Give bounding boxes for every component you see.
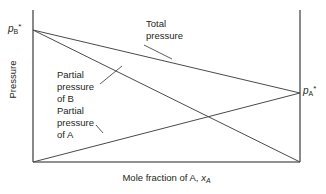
pressure-pure-a-label: pA* (303, 84, 316, 97)
x-axis-title-text: Mole fraction of A, (122, 172, 201, 183)
partial-pressure-a-leader (96, 125, 103, 133)
partial-pressure-b-label-line2: pressure (57, 81, 94, 93)
partial-pressure-b-label-line3: of B (57, 93, 94, 105)
partial-pressure-a-label: Partial pressure of A (57, 105, 94, 141)
total-pressure-label-line1: Total (146, 18, 183, 30)
total-pressure-label-line2: pressure (146, 30, 183, 42)
x-axis-title-variable-subscript: A (206, 177, 211, 184)
pressure-pure-a-superscript: * (313, 84, 316, 93)
vapor-pressure-diagram: Pressure Mole fraction of A, xA pB* pA* … (0, 0, 326, 194)
total-pressure-label: Total pressure (146, 18, 183, 42)
partial-pressure-b-label-line1: Partial (57, 69, 94, 81)
y-axis-title: Pressure (7, 44, 18, 116)
partial-pressure-b-label: Partial pressure of B (57, 69, 94, 105)
pressure-pure-b-superscript: * (18, 22, 21, 31)
pressure-pure-b-label: pB* (8, 22, 21, 35)
partial-pressure-a-label-line1: Partial (57, 105, 94, 117)
x-axis-title: Mole fraction of A, xA (33, 172, 300, 184)
partial-pressure-a-label-line2: pressure (57, 117, 94, 129)
partial-pressure-a-label-line3: of A (57, 129, 94, 141)
